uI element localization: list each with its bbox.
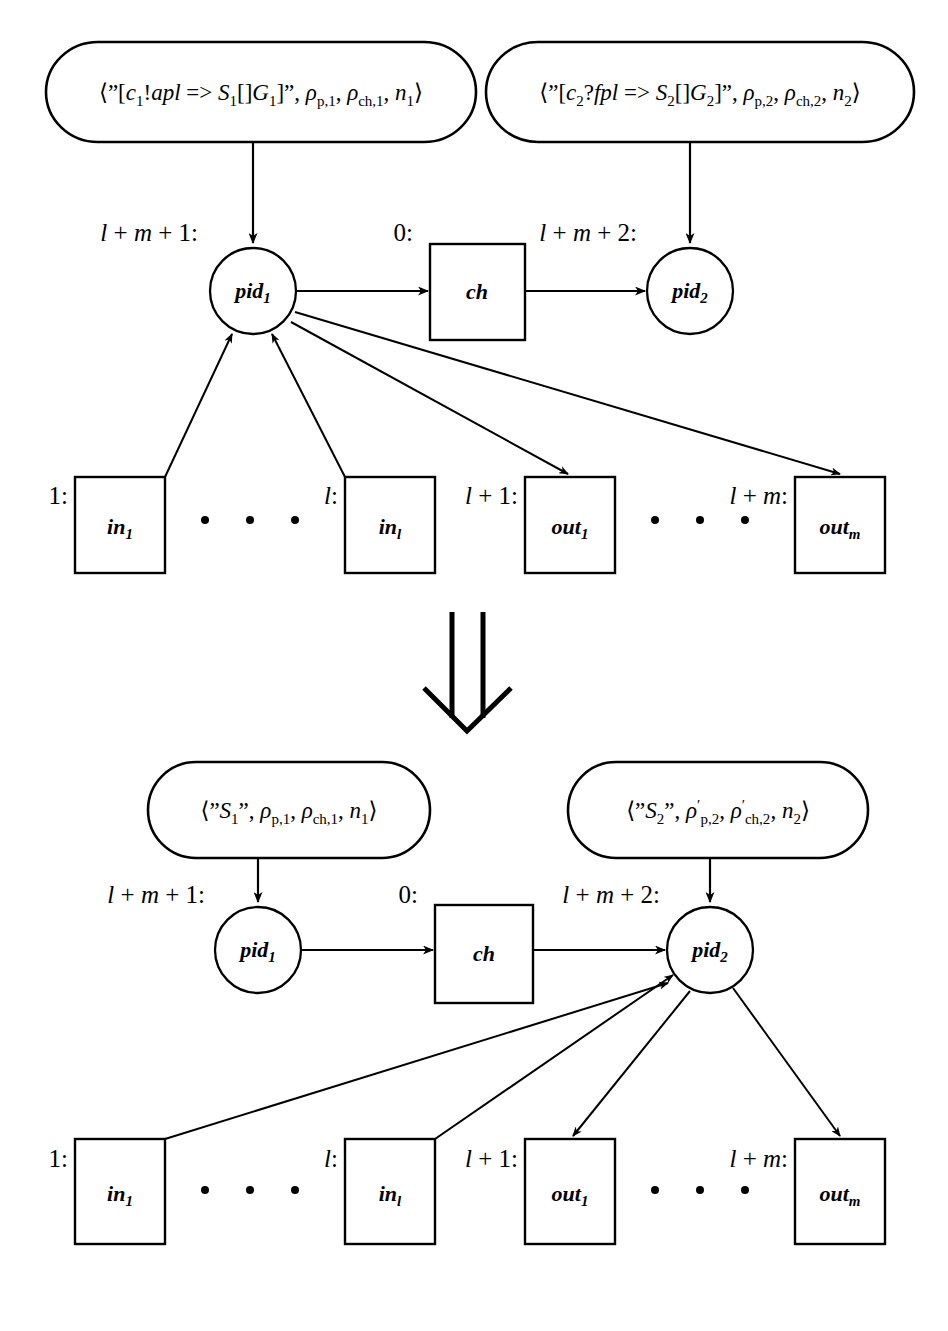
index-label-ch-lower: 0: <box>399 881 418 908</box>
index-label-out1-lower: l + 1: <box>465 1145 518 1172</box>
port-in1-lower[interactable]: in1 1: <box>49 1139 165 1244</box>
port-outm-upper[interactable]: outm l + m: <box>729 477 885 573</box>
node-pid2-lower[interactable]: pid2 <box>667 907 753 993</box>
port-out1-upper[interactable]: out1 l + 1: <box>465 477 615 573</box>
node-ch-lower[interactable]: ch <box>435 905 533 1003</box>
state-box-upper-left[interactable]: ⟨”[c1!apl => S1[]G1]”, ρp,1, ρch,1, n1⟩ <box>46 42 476 142</box>
edge-inl-to-pid1-upper <box>272 334 345 477</box>
node-pid1-upper[interactable]: pid1 <box>210 248 296 334</box>
index-label-pid2-lower: l + m + 2: <box>562 881 660 908</box>
port-inl-lower[interactable]: inl l: <box>324 1139 435 1244</box>
ellipsis-in-lower <box>201 1186 299 1194</box>
state-box-lower-left[interactable]: ⟨”S1”, ρp,1, ρch,1, n1⟩ <box>148 762 430 858</box>
edge-pid1-to-outm-upper <box>295 312 840 474</box>
upper-diagram: ⟨”[c1!apl => S1[]G1]”, ρp,1, ρch,1, n1⟩ … <box>46 42 914 573</box>
port-out1-lower[interactable]: out1 l + 1: <box>465 1139 615 1244</box>
index-label-inl-upper: l: <box>324 482 338 509</box>
node-ch-upper-label: ch <box>466 279 488 304</box>
index-label-out1-upper: l + 1: <box>465 482 518 509</box>
index-label-outm-lower: l + m: <box>729 1145 788 1172</box>
ellipsis-out-lower <box>651 1186 749 1194</box>
index-label-outm-upper: l + m: <box>729 482 788 509</box>
state-box-upper-right[interactable]: ⟨”[c2?fpl => S2[]G2]”, ρp,2, ρch,2, n2⟩ <box>486 42 914 142</box>
edge-in1-to-pid1-upper <box>165 334 232 477</box>
edge-pid2-to-outm-lower <box>733 988 840 1136</box>
node-ch-upper[interactable]: ch <box>430 244 525 340</box>
index-label-pid2-upper: l + m + 2: <box>539 219 637 246</box>
state-box-lower-right[interactable]: ⟨”S2”, ρ′p,2, ρ′ch,2, n2⟩ <box>568 762 868 858</box>
port-in1-upper[interactable]: in1 1: <box>49 477 165 573</box>
node-ch-lower-label: ch <box>473 941 495 966</box>
index-label-in1-upper: 1: <box>49 482 68 509</box>
port-outm-lower[interactable]: outm l + m: <box>729 1139 885 1244</box>
node-pid2-upper[interactable]: pid2 <box>647 248 733 334</box>
edge-pid2-to-out1-lower <box>573 991 690 1136</box>
diagram-page: ⟨”[c1!apl => S1[]G1]”, ρp,1, ρch,1, n1⟩ … <box>0 0 948 1331</box>
node-pid1-lower[interactable]: pid1 <box>215 907 301 993</box>
index-label-pid1-lower: l + m + 1: <box>107 881 205 908</box>
index-label-inl-lower: l: <box>324 1145 338 1172</box>
double-down-arrow <box>424 612 511 731</box>
ellipsis-out-upper <box>651 516 749 524</box>
port-inl-upper[interactable]: inl l: <box>324 477 435 573</box>
index-label-ch-upper: 0: <box>394 219 413 246</box>
index-label-pid1-upper: l + m + 1: <box>100 219 198 246</box>
process-graph-diagram: ⟨”[c1!apl => S1[]G1]”, ρp,1, ρch,1, n1⟩ … <box>0 0 948 1331</box>
index-label-in1-lower: 1: <box>49 1145 68 1172</box>
ellipsis-in-upper <box>201 516 299 524</box>
lower-diagram: ⟨”S1”, ρp,1, ρch,1, n1⟩ ⟨”S2”, ρ′p,2, ρ′… <box>49 762 885 1244</box>
edge-in1-to-pid2-lower <box>165 983 668 1139</box>
